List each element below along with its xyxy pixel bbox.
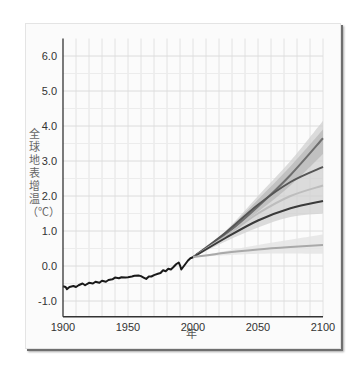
chart-plot: 6.05.04.03.02.01.00.0-1.0 19001950200020… — [0, 0, 363, 376]
y-tick-label: 3.0 — [42, 155, 57, 167]
y-tick-label: 4.0 — [42, 120, 57, 132]
x-tick-label: 2050 — [246, 321, 270, 333]
x-tick-label: 2100 — [311, 321, 335, 333]
y-tick-label: 1.0 — [42, 225, 57, 237]
y-tick-label: 6.0 — [42, 50, 57, 62]
x-axis-label: 年 — [186, 325, 197, 341]
y-tick-label: -1.0 — [38, 295, 57, 307]
x-tick-label: 1900 — [51, 321, 75, 333]
y-tick-label: 2.0 — [42, 190, 57, 202]
x-tick-label: 1950 — [116, 321, 140, 333]
y-axis-label: 全球地表增温（℃） — [27, 128, 41, 219]
y-tick-label: 5.0 — [42, 85, 57, 97]
y-tick-label: 0.0 — [42, 260, 57, 272]
